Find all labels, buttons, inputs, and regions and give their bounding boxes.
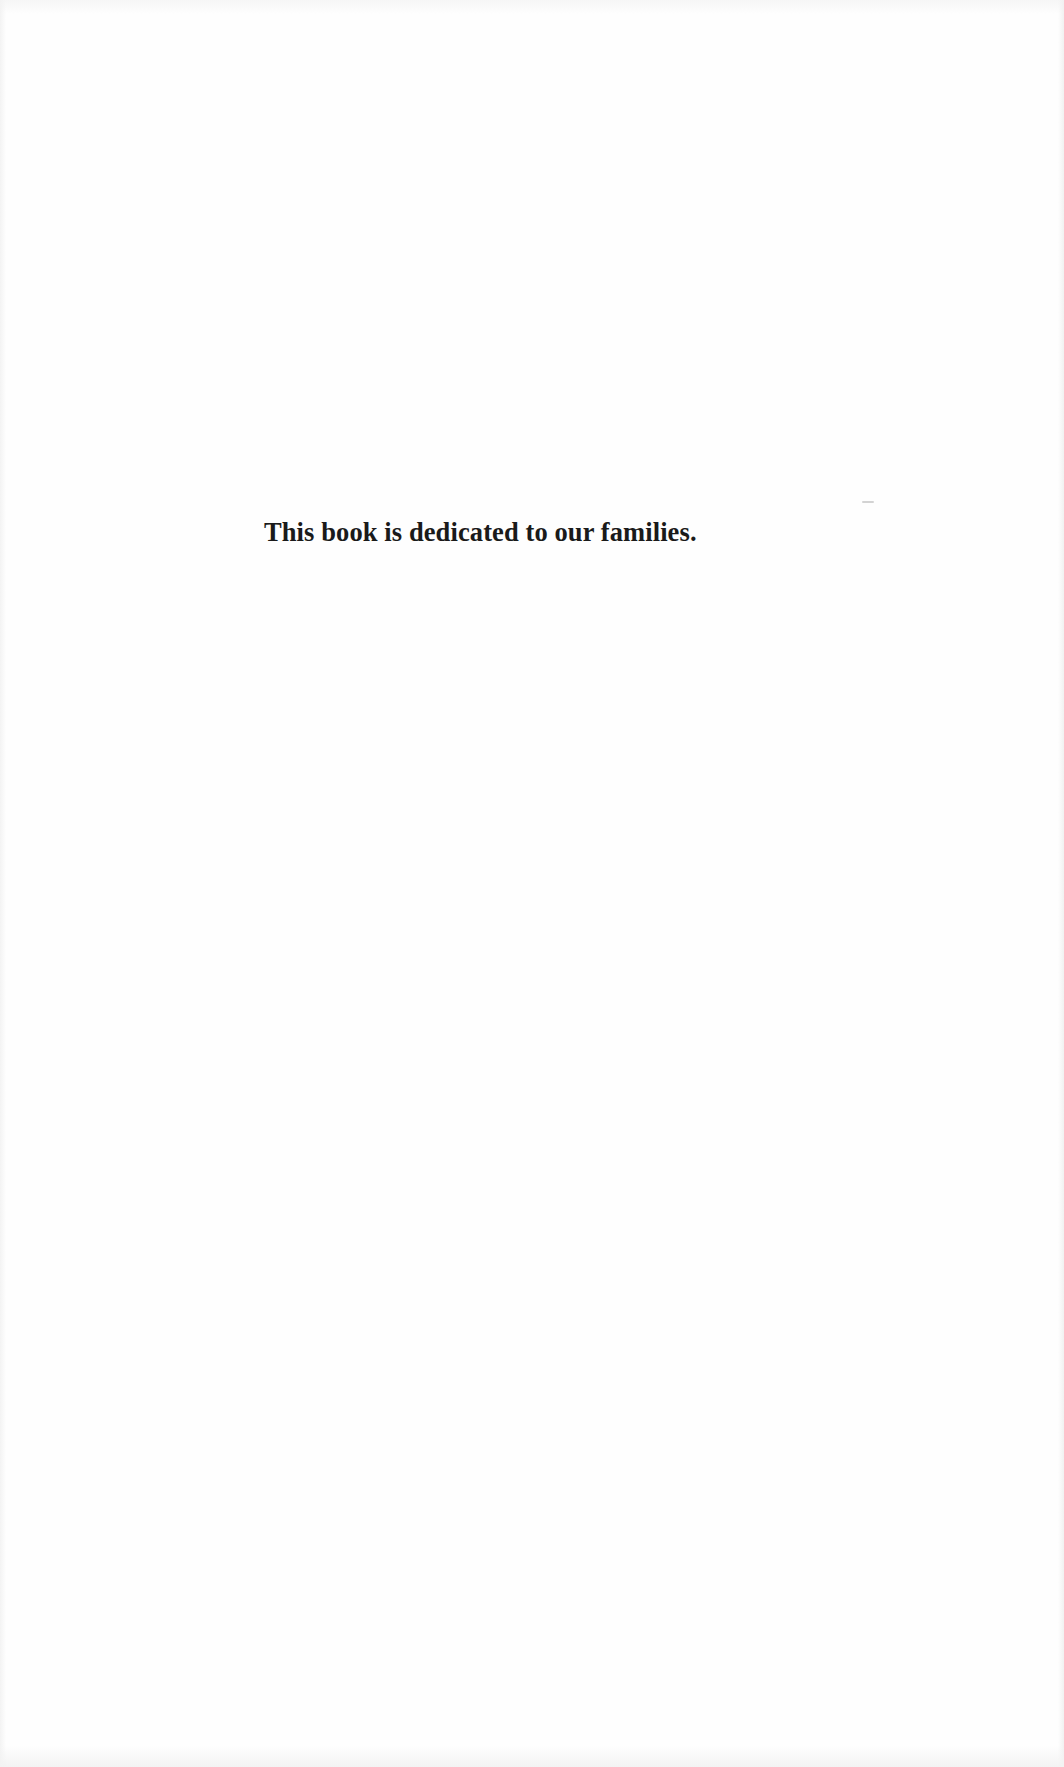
scan-edge-right	[1058, 0, 1064, 1767]
dedication-text: This book is dedicated to our families.	[264, 514, 697, 550]
scan-edge-left	[0, 0, 6, 1767]
scan-edge-bottom	[0, 1745, 1064, 1767]
book-page: This book is dedicated to our families.	[0, 0, 1064, 1767]
scan-edge-top	[0, 0, 1064, 14]
scan-speck	[862, 501, 874, 503]
